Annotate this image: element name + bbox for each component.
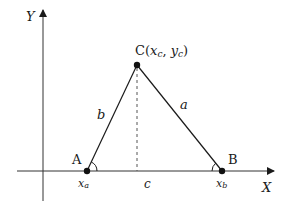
vertex-a-point: [84, 168, 90, 174]
vertex-b-point: [219, 168, 225, 174]
coord-xb-label: xb: [216, 177, 227, 190]
vertex-b-label: B: [228, 152, 238, 167]
y-axis-label: Y: [26, 9, 36, 24]
angle-arc-a: [91, 162, 97, 171]
side-a: [137, 65, 222, 171]
angle-arc-b: [212, 163, 216, 171]
coord-xa-label: xa: [78, 177, 89, 190]
vertex-c-point: [134, 62, 140, 68]
x-axis-label: X: [261, 180, 272, 195]
triangle-diagram: Y X A B C(xc, yc) xa xb b a c: [0, 0, 288, 205]
side-b-label: b: [97, 107, 105, 122]
side-c-label: c: [144, 177, 151, 191]
side-b: [87, 65, 137, 171]
vertex-a-label: A: [71, 152, 82, 167]
side-a-label: a: [180, 97, 188, 112]
vertex-c-label: C(xc, yc): [135, 43, 188, 59]
